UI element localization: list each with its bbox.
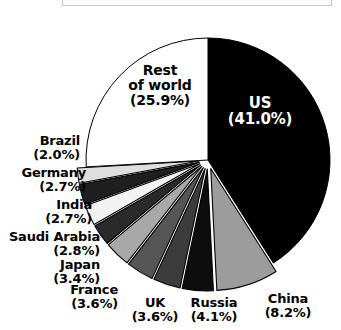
slice-label-us-pct: (41.0%) — [214, 112, 306, 128]
pie-chart-figure: Share of global total US (41.0%) Rest of… — [0, 0, 341, 330]
slice-label-india: India (2.7%) — [0, 198, 92, 226]
slice-label-rest-of-world-line2: of world — [112, 78, 208, 93]
slice-label-germany-name: Germany — [0, 166, 86, 180]
slice-label-us: US (41.0%) — [214, 96, 306, 128]
slice-label-china-pct: (8.2%) — [248, 306, 328, 320]
slice-label-brazil-pct: (2.0%) — [0, 148, 80, 162]
slice-label-saudi-arabia-name: Saudi Arabia — [0, 230, 100, 244]
slice-label-brazil-name: Brazil — [0, 134, 80, 148]
slice-label-germany-pct: (2.7%) — [0, 180, 86, 194]
slice-label-japan-name: Japan — [8, 258, 100, 272]
slice-label-brazil: Brazil (2.0%) — [0, 134, 80, 162]
slice-label-saudi-arabia: Saudi Arabia (2.8%) — [0, 230, 100, 258]
slice-label-france-name: France — [32, 283, 118, 297]
slice-label-germany: Germany (2.7%) — [0, 166, 86, 194]
slice-label-france-pct: (3.6%) — [32, 297, 118, 311]
slice-label-rest-of-world-pct: (25.9%) — [112, 93, 208, 108]
slice-label-russia: Russia (4.1%) — [176, 296, 252, 324]
slice-label-russia-pct: (4.1%) — [176, 310, 252, 324]
slice-label-india-pct: (2.7%) — [0, 212, 92, 226]
slice-label-rest-of-world: Rest of world (25.9%) — [112, 63, 208, 107]
slice-label-france: France (3.6%) — [32, 283, 118, 311]
slice-label-china: China (8.2%) — [248, 292, 328, 320]
slice-label-saudi-arabia-pct: (2.8%) — [0, 244, 100, 258]
slice-label-india-name: India — [0, 198, 92, 212]
slice-label-china-name: China — [248, 292, 328, 306]
slice-label-russia-name: Russia — [176, 296, 252, 310]
slice-label-rest-of-world-line1: Rest — [112, 63, 208, 78]
